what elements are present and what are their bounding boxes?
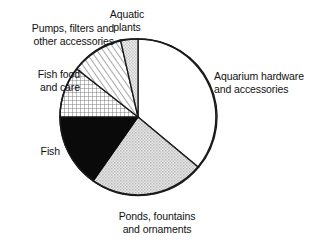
slice-label-ponds-fountains: Ponds, fountains and ornaments [82, 210, 232, 236]
slice-label-aquatic-plants: Aquatic plants [96, 8, 158, 34]
slice-label-aquarium-hardware: Aquarium hardware and accessories [214, 70, 320, 96]
slice-label-fish: Fish [8, 145, 60, 158]
slice-label-fish-food-and-care: Fish food and care [4, 68, 80, 94]
pie-chart: Pumps, filters and other accessories Aqu… [0, 0, 320, 252]
